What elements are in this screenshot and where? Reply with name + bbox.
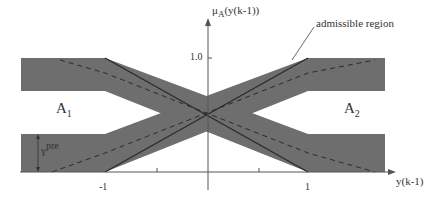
gamma-pre-label: γpre: [41, 140, 59, 156]
tick-label-1-0: 1.0: [190, 51, 203, 62]
set-label-a1: A1: [56, 100, 72, 119]
admissible-region-label: admissible region: [316, 17, 394, 29]
tick-label-neg-1: -1: [99, 181, 107, 192]
y-axis-label: μA(y(k-1)): [212, 4, 259, 19]
set-label-a2: A2: [344, 100, 360, 119]
tick-label-pos-1: 1: [305, 181, 310, 192]
admissible-pointer: [292, 27, 314, 60]
x-axis-label: y(k-1): [396, 175, 424, 187]
y-axis-arrow-icon: [205, 18, 211, 26]
fuzzy-membership-diagram: μA(y(k-1)) y(k-1) 1.0 -1 1 A1 A2 γpre ad…: [0, 0, 442, 203]
x-axis-arrow-icon: [388, 169, 396, 175]
